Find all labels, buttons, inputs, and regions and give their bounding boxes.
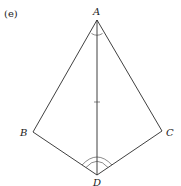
part-label: (e) <box>4 8 18 19</box>
vertex-label-a: A <box>92 6 100 17</box>
segment-bd <box>33 132 97 175</box>
segment-ab <box>33 20 97 132</box>
segment-cd <box>97 131 162 175</box>
vertex-label-c: C <box>166 127 174 138</box>
kite-diagram: (e) A B C D <box>0 0 181 186</box>
segment-ac <box>97 20 162 131</box>
vertex-label-b: B <box>19 127 27 138</box>
vertex-label-d: D <box>92 177 101 186</box>
